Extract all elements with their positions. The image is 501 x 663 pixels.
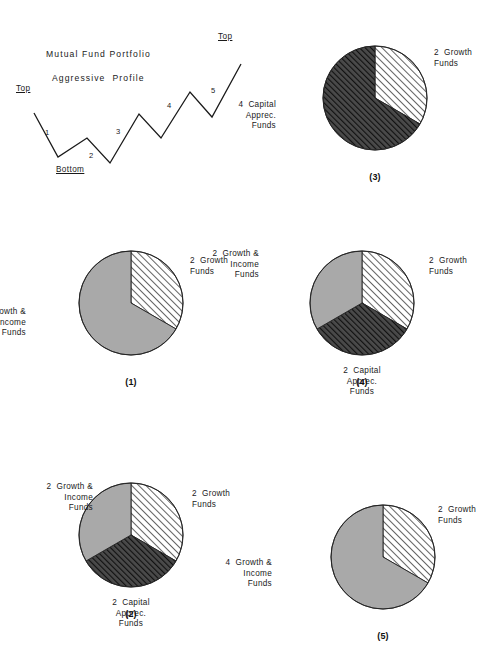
- pie-chart-5: [329, 503, 437, 611]
- pie-slice-label: 2 Growth Funds: [429, 256, 467, 277]
- pie-slice-label: 2 Growth Funds: [434, 48, 472, 69]
- pie-chart-1: [77, 249, 185, 357]
- pie-slice-label: 4 Growth & Income Funds: [225, 558, 272, 590]
- pie-caption: (3): [345, 172, 405, 182]
- pie-chart-3: [321, 44, 429, 152]
- pie-svg: [321, 44, 429, 152]
- pie-svg: [77, 481, 185, 589]
- pie-svg: [77, 249, 185, 357]
- pie-caption: (2): [101, 609, 161, 619]
- pie-slice-label: 4 Growth & Income Funds: [0, 307, 26, 339]
- pie-svg: [329, 503, 437, 611]
- pie-caption: (5): [353, 631, 413, 641]
- pie-caption: (1): [101, 377, 161, 387]
- pie-slice-label: 4 Capital Apprec. Funds: [238, 100, 276, 132]
- pie-chart-4: [308, 249, 416, 357]
- pie-svg: [308, 249, 416, 357]
- pie-chart-2: [77, 481, 185, 589]
- pie-slice-label: 2 Growth & Income Funds: [212, 249, 259, 281]
- pie-chart-layer: 2 Growth Funds4 Capital Apprec. Funds(3)…: [0, 0, 501, 663]
- pie-caption: (4): [332, 377, 392, 387]
- pie-slice-label: 2 Growth Funds: [438, 505, 476, 526]
- pie-slice-label: 2 Growth & Income Funds: [46, 482, 93, 514]
- pie-slice-label: 2 Growth Funds: [192, 489, 230, 510]
